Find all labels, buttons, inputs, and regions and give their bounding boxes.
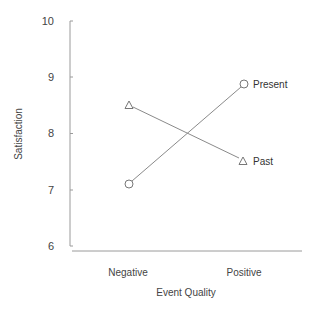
y-tick-9: 9	[48, 71, 54, 83]
series-present: Present	[125, 79, 288, 188]
y-tick-10: 10	[42, 15, 54, 27]
y-tick-8: 8	[48, 127, 54, 139]
present-marker-positive	[240, 80, 248, 88]
y-tick-7: 7	[48, 184, 54, 196]
past-marker-negative	[125, 101, 133, 109]
present-marker-negative	[125, 180, 133, 188]
present-line	[132, 87, 241, 181]
x-category-negative: Negative	[108, 267, 148, 278]
y-tick-6: 6	[48, 240, 54, 252]
series-past: Past	[125, 101, 273, 167]
y-axis-title: Satisfaction	[13, 108, 24, 160]
x-axis-title: Event Quality	[156, 287, 215, 298]
past-label: Past	[253, 156, 273, 167]
present-label: Present	[253, 79, 288, 90]
past-marker-positive	[239, 157, 247, 165]
x-category-positive: Positive	[226, 267, 261, 278]
past-line	[133, 107, 239, 158]
chart: 10 9 8 7 6 Satisfaction Negative Positiv…	[0, 0, 313, 312]
